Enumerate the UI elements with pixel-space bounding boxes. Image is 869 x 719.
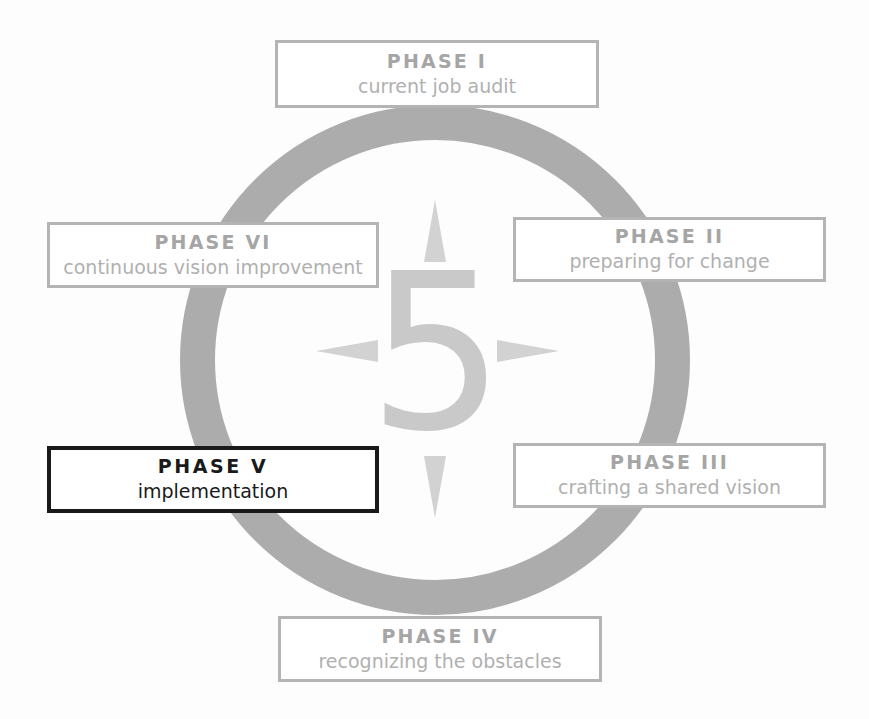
phase-subtitle: crafting a shared vision: [558, 476, 781, 499]
phase-title: PHASE III: [610, 452, 729, 474]
phase-title: PHASE VI: [154, 232, 271, 254]
phase-box-phase-2[interactable]: PHASE II preparing for change: [513, 217, 826, 282]
phase-subtitle: continuous vision improvement: [63, 256, 362, 279]
arrow-up-icon: [424, 200, 446, 262]
phase-subtitle: implementation: [138, 480, 289, 503]
phase-title: PHASE IV: [381, 626, 498, 648]
phase-box-phase-1[interactable]: PHASE I current job audit: [275, 40, 599, 108]
phase-subtitle: current job audit: [358, 75, 516, 98]
phase-subtitle: preparing for change: [569, 250, 769, 273]
phase-box-phase-4[interactable]: PHASE IV recognizing the obstacles: [278, 616, 602, 682]
cycle-diagram: 5 PHASE I current job audit PHASE II pre…: [0, 0, 869, 719]
phase-title: PHASE V: [158, 456, 269, 478]
phase-subtitle: recognizing the obstacles: [318, 650, 561, 673]
arrow-right-icon: [497, 340, 559, 362]
phase-box-phase-6[interactable]: PHASE VI continuous vision improvement: [47, 222, 379, 288]
phase-title: PHASE II: [615, 226, 725, 248]
arrow-down-icon: [424, 456, 446, 518]
cycle-ring: [180, 105, 690, 615]
phase-box-phase-5[interactable]: PHASE V implementation: [47, 446, 379, 513]
arrow-left-icon: [316, 340, 378, 362]
phase-box-phase-3[interactable]: PHASE III crafting a shared vision: [513, 443, 826, 508]
phase-title: PHASE I: [387, 51, 487, 73]
